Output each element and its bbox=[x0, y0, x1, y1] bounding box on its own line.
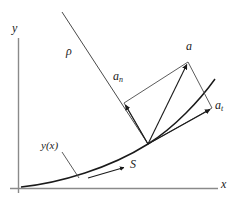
vector-diagram-figure: y x ρ y(x) S a an at bbox=[0, 0, 238, 204]
acceleration-vector bbox=[148, 65, 187, 145]
diagram-canvas bbox=[0, 0, 238, 204]
arc-length-label: S bbox=[130, 158, 136, 170]
arc-length-arrow bbox=[88, 168, 124, 179]
tangential-acceleration-vector bbox=[148, 110, 210, 145]
axes-group bbox=[10, 38, 218, 193]
x-axis-label: x bbox=[221, 178, 226, 190]
acceleration-label: a bbox=[186, 40, 192, 52]
radius-of-curvature-line bbox=[62, 12, 148, 144]
curve-function-label: y(x) bbox=[41, 140, 58, 151]
y-axis-label: y bbox=[12, 22, 17, 34]
tangential-acceleration-label-subscript: t bbox=[221, 104, 223, 113]
normal-acceleration-label-subscript: n bbox=[119, 75, 123, 84]
normal-acceleration-vector bbox=[126, 105, 149, 144]
trajectory-curve bbox=[21, 79, 215, 187]
normal-acceleration-label: an bbox=[113, 70, 123, 82]
curve-label-leader-line bbox=[62, 152, 79, 178]
tangential-acceleration-label: at bbox=[215, 99, 223, 111]
radius-of-curvature-label: ρ bbox=[66, 45, 72, 57]
